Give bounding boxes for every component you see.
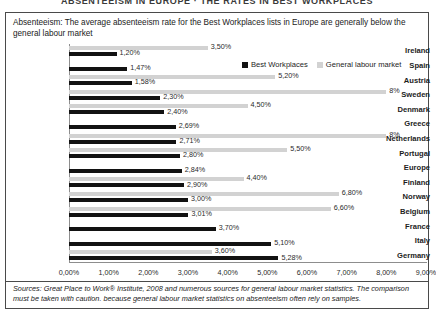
category-label: Austria — [370, 76, 430, 85]
bar-general-labour-market — [69, 250, 212, 254]
bar-best-workplaces — [69, 169, 182, 173]
bar-value-label: 3,50% — [211, 42, 231, 51]
bar-best-workplaces — [69, 154, 180, 158]
x-tick-label: 5,00% — [257, 268, 277, 277]
category-label: Greece — [370, 119, 430, 128]
x-tick-label: 6,00% — [297, 268, 317, 277]
bar-best-workplaces — [69, 125, 176, 129]
bar-value-label: 5,28% — [281, 253, 301, 262]
bar-general-labour-market — [69, 104, 248, 108]
bar-value-label: 4,40% — [247, 173, 267, 182]
category-label: Germany — [370, 251, 430, 260]
bar-best-workplaces — [69, 242, 271, 246]
bar-general-labour-market — [69, 148, 287, 152]
bar-value-label: 3,60% — [215, 246, 235, 255]
bar-best-workplaces — [69, 198, 188, 202]
category-label: Finland — [370, 178, 430, 187]
bar-value-label: 3,70% — [219, 223, 239, 232]
bar-best-workplaces — [69, 213, 188, 217]
bar-best-workplaces — [69, 227, 216, 231]
category-label: Portugal — [370, 149, 430, 158]
bar-best-workplaces — [69, 140, 176, 144]
bar-value-label: 6,80% — [342, 188, 362, 197]
bar-general-labour-market — [69, 134, 386, 138]
x-tick-label: 1,00% — [98, 268, 118, 277]
category-label: Denmark — [370, 105, 430, 114]
x-tick-label: 2,00% — [138, 268, 158, 277]
x-axis-ticks: 0,00%1,00%2,00%3,00%4,00%5,00%6,00%7,00%… — [6, 265, 430, 281]
chart-headline: Absenteeism: The average absenteeism rat… — [13, 17, 419, 39]
bar-value-label: 6,60% — [334, 203, 354, 212]
x-tick-label: 3,00% — [178, 268, 198, 277]
bar-value-label: 5,10% — [274, 238, 294, 247]
plot-area: Ireland3,50%1,20%Spain1,47%Austria5,20%1… — [6, 44, 430, 281]
bar-value-label: 2,71% — [179, 136, 199, 145]
bar-best-workplaces — [69, 81, 132, 85]
bar-value-label: 2,84% — [185, 165, 205, 174]
x-tick-label: 4,00% — [217, 268, 237, 277]
bar-value-label: 3,00% — [191, 194, 211, 203]
bar-general-labour-market — [69, 177, 244, 181]
bar-value-label: 2,30% — [163, 92, 183, 101]
bar-value-label: 2,90% — [187, 180, 207, 189]
bar-value-label: 4,50% — [251, 100, 271, 109]
bar-value-label: 2,40% — [167, 107, 187, 116]
bar-general-labour-market — [69, 75, 275, 79]
category-label: Spain — [370, 61, 430, 70]
category-label: Belgium — [370, 207, 430, 216]
category-label: Europe — [370, 163, 430, 172]
bar-value-label: 2,69% — [179, 121, 199, 130]
bar-value-label: 2,80% — [183, 150, 203, 159]
category-label: Norway — [370, 192, 430, 201]
x-tick-label: 9,00% — [416, 268, 436, 277]
category-label: Italy — [370, 236, 430, 245]
bar-best-workplaces — [69, 256, 278, 260]
bar-best-workplaces — [69, 183, 184, 187]
category-label: France — [370, 222, 430, 231]
bar-value-label: 5,50% — [290, 144, 310, 153]
banner-title: ABSENTEEISM IN EUROPE · THE RATES IN BES… — [0, 0, 434, 6]
bar-value-label: 3,01% — [191, 209, 211, 218]
bar-general-labour-market — [69, 90, 386, 94]
bar-value-label: 1,47% — [130, 63, 150, 72]
bar-value-label: 5,20% — [278, 71, 298, 80]
bar-rows: Ireland3,50%1,20%Spain1,47%Austria5,20%1… — [6, 44, 430, 263]
x-tick-label: 8,00% — [376, 268, 396, 277]
x-tick-label: 7,00% — [336, 268, 356, 277]
bar-best-workplaces — [69, 96, 160, 100]
chart-footer-note: Sources: Great Place to Work® Institute,… — [13, 284, 421, 304]
bar-best-workplaces — [69, 67, 127, 71]
bar-value-label: 8% — [389, 86, 399, 95]
bar-best-workplaces — [69, 110, 164, 114]
bar-best-workplaces — [69, 52, 117, 56]
category-label: Ireland — [370, 46, 430, 55]
bar-value-label: 1,58% — [135, 77, 155, 86]
footer-divider — [6, 281, 428, 282]
x-tick-label: 0,00% — [59, 268, 79, 277]
bar-value-label: 1,20% — [120, 48, 140, 57]
bar-value-label: 8% — [389, 130, 399, 139]
chart-frame: Absenteeism: The average absenteeism rat… — [5, 12, 429, 309]
